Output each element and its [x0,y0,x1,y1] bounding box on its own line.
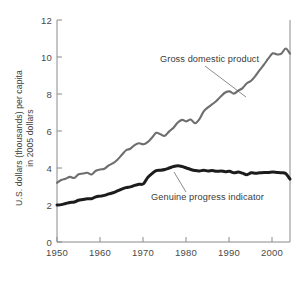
series-line-gdp [57,48,290,182]
x-tick-label-2000: 2000 [261,247,283,258]
y-tick-label-10: 10 [41,52,52,63]
line-chart: U.S. dollars (thousands) per capita in 2… [0,0,306,282]
y-axis-label-line1: U.S. dollars (thousands) per capita [14,70,24,206]
y-tick-label-4: 4 [47,163,52,174]
y-axis-ticks: 12 10 8 6 4 2 0 [41,15,62,248]
x-tick-label-1970: 1970 [132,247,154,258]
y-tick-label-8: 8 [47,89,52,100]
y-tick-label-0: 0 [47,237,52,248]
series-layer [57,48,290,205]
y-axis-label-line2: in 2005 dollars [25,109,35,166]
x-axis-ticks: 1950 1960 1970 1980 1990 2000 [46,237,283,258]
x-tick-label-1960: 1960 [89,247,111,258]
annotation-leader-gpi [174,172,186,192]
chart-figure: U.S. dollars (thousands) per capita in 2… [0,0,306,282]
annotation-label-gpi: Genuine progress indicator [151,192,264,202]
annotation-layer: Gross domestic productGenuine progress i… [151,54,264,202]
annotation-label-gdp: Gross domestic product [160,54,260,64]
y-tick-label-12: 12 [41,15,52,26]
y-axis-label: U.S. dollars (thousands) per capita in 2… [14,70,35,206]
y-tick-label-6: 6 [47,126,52,137]
x-tick-label-1990: 1990 [218,247,240,258]
x-tick-label-1950: 1950 [46,247,68,258]
x-tick-label-1980: 1980 [175,247,197,258]
y-tick-label-2: 2 [47,200,52,211]
